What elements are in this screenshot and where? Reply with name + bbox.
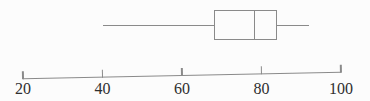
x-axis-tick — [102, 70, 104, 78]
x-axis-tick — [340, 65, 342, 73]
x-axis-tick-label: 60 — [174, 80, 190, 97]
x-axis-tick — [22, 71, 24, 79]
x-axis-tick — [261, 66, 263, 74]
x-axis-tick-label: 40 — [95, 80, 111, 97]
boxplot-figure: 20406080100 — [0, 0, 370, 101]
x-axis-tick-label: 80 — [254, 80, 270, 97]
x-axis-ticks — [0, 0, 368, 4]
x-axis: 20406080100 — [0, 0, 370, 101]
x-axis-tick-label: 100 — [329, 80, 353, 97]
x-axis-tick — [181, 68, 183, 76]
x-axis-tick-label: 20 — [15, 80, 31, 97]
